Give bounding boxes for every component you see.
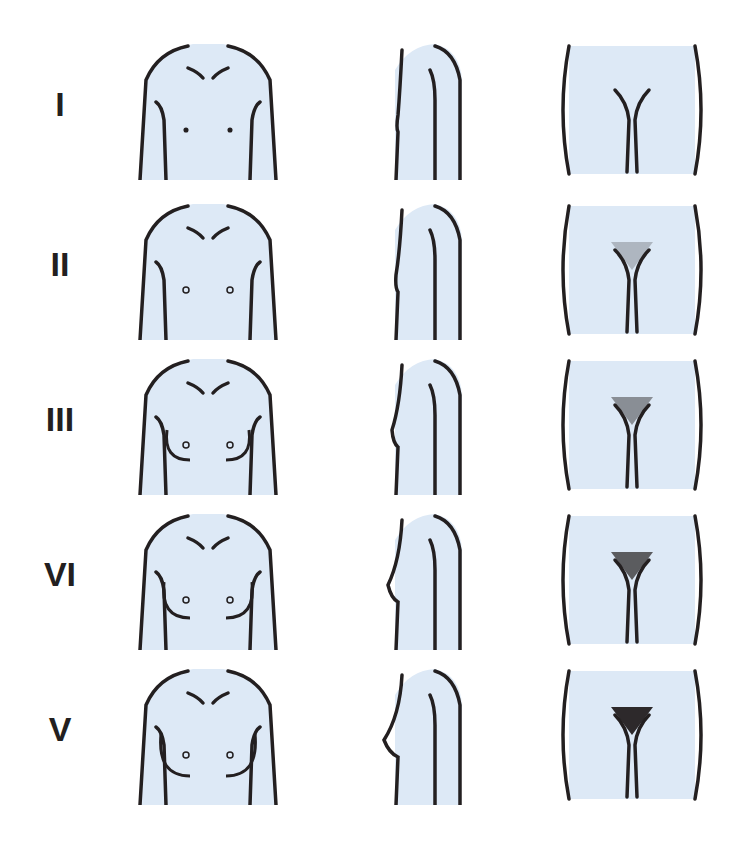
stage-label: V: [30, 710, 90, 749]
stage-label: I: [30, 85, 90, 124]
stage-row-1: I: [0, 40, 747, 190]
side-view-illustration: [380, 665, 470, 805]
stage-row-2: II: [0, 200, 747, 350]
front-view-illustration: [118, 510, 298, 650]
front-view-illustration: [118, 200, 298, 340]
side-view-illustration: [380, 355, 470, 495]
stage-label: II: [30, 245, 90, 284]
pelvic-view-illustration: [555, 510, 710, 650]
front-view-illustration: [118, 665, 298, 805]
pelvic-view-illustration: [555, 40, 710, 180]
side-view-illustration: [380, 200, 470, 340]
front-view-illustration: [118, 40, 298, 180]
side-view-illustration: [380, 40, 470, 180]
stage-row-5: V: [0, 665, 747, 815]
front-view-illustration: [118, 355, 298, 495]
pelvic-view-illustration: [555, 665, 710, 805]
stage-label: III: [30, 400, 90, 439]
stage-row-3: III: [0, 355, 747, 505]
pelvic-view-illustration: [555, 355, 710, 495]
pelvic-view-illustration: [555, 200, 710, 340]
side-view-illustration: [380, 510, 470, 650]
stage-label: VI: [30, 555, 90, 594]
stage-row-4: VI: [0, 510, 747, 660]
